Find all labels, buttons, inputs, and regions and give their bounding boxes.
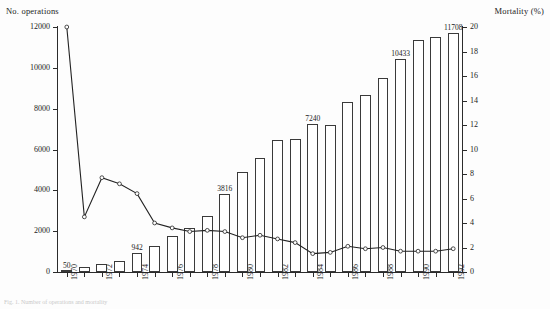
bar-value-label: 7240	[293, 114, 332, 123]
right-tick	[463, 150, 467, 151]
line-marker	[416, 249, 420, 253]
right-tick-label: 18	[470, 47, 478, 56]
x-tick	[260, 273, 261, 277]
bar-value-label: 3816	[206, 184, 245, 193]
figure-caption: Fig. 1. Number of operations and mortali…	[4, 299, 544, 308]
x-tick	[348, 273, 349, 277]
right-tick	[463, 101, 467, 102]
left-tick	[53, 190, 57, 191]
line-marker	[170, 226, 174, 230]
left-tick	[53, 27, 57, 28]
bar-value-label: 11708	[434, 23, 473, 32]
x-tick	[84, 273, 85, 277]
right-tick-label: 4	[470, 218, 474, 227]
right-tick-label: 0	[470, 267, 474, 276]
line-marker	[311, 252, 315, 256]
right-axis-title: Mortality (%)	[494, 6, 544, 16]
right-tick-label: 14	[470, 96, 478, 105]
mortality-line-series	[58, 27, 462, 272]
line-marker	[118, 182, 122, 186]
left-tick	[53, 109, 57, 110]
x-tick	[67, 273, 68, 277]
bar-value-label: 10433	[381, 49, 420, 58]
line-marker	[451, 247, 455, 251]
left-tick-label: 10000	[0, 63, 50, 72]
right-tick	[463, 52, 467, 53]
line-marker	[363, 247, 367, 251]
line-marker	[434, 249, 438, 253]
line-marker	[65, 25, 69, 29]
x-tick	[418, 273, 419, 277]
right-tick-label: 12	[470, 120, 478, 129]
right-tick-label: 10	[470, 145, 478, 154]
plot-area	[58, 27, 462, 272]
right-tick	[463, 223, 467, 224]
line-marker	[188, 230, 192, 234]
right-tick-label: 8	[470, 169, 474, 178]
left-tick	[53, 272, 57, 273]
x-tick	[119, 273, 120, 277]
bar-value-label: 942	[118, 243, 157, 252]
left-tick-label: 12000	[0, 22, 50, 31]
x-tick	[365, 273, 366, 277]
left-tick-label: 2000	[0, 226, 50, 235]
x-tick	[137, 273, 138, 277]
line-marker	[346, 244, 350, 248]
left-tick	[53, 231, 57, 232]
line-marker	[381, 246, 385, 250]
line-marker	[100, 176, 104, 180]
left-tick	[53, 68, 57, 69]
left-tick-label: 6000	[0, 145, 50, 154]
line-marker	[135, 192, 139, 196]
x-tick	[401, 273, 402, 277]
x-tick	[102, 273, 103, 277]
line-marker	[399, 249, 403, 253]
x-tick	[172, 273, 173, 277]
x-tick	[453, 273, 454, 277]
line-marker	[241, 236, 245, 240]
right-tick-label: 16	[470, 71, 478, 80]
right-tick-label: 2	[470, 243, 474, 252]
x-tick	[330, 273, 331, 277]
x-tick	[383, 273, 384, 277]
line-marker	[258, 233, 262, 237]
line-marker	[293, 241, 297, 245]
figure-chart: No. operations Mortality (%) 02000400060…	[0, 0, 550, 309]
line-marker	[205, 228, 209, 232]
left-tick-label: 8000	[0, 104, 50, 113]
x-tick	[225, 273, 226, 277]
line-marker	[276, 237, 280, 241]
x-tick	[313, 273, 314, 277]
x-tick	[295, 273, 296, 277]
x-tick	[436, 273, 437, 277]
x-tick	[278, 273, 279, 277]
x-tick	[242, 273, 243, 277]
x-tick	[190, 273, 191, 277]
line-marker	[153, 221, 157, 225]
left-tick-label: 0	[0, 267, 50, 276]
left-tick-label: 4000	[0, 185, 50, 194]
left-axis-title: No. operations	[6, 6, 59, 16]
right-tick	[463, 125, 467, 126]
line-marker	[328, 251, 332, 255]
bar-value-label: 50	[47, 261, 86, 270]
x-tick	[155, 273, 156, 277]
left-tick	[53, 150, 57, 151]
right-tick-label: 6	[470, 194, 474, 203]
right-tick	[463, 199, 467, 200]
right-tick	[463, 76, 467, 77]
line-marker	[223, 230, 227, 234]
right-tick	[463, 174, 467, 175]
line-marker	[82, 215, 86, 219]
x-tick	[207, 273, 208, 277]
right-tick	[463, 248, 467, 249]
